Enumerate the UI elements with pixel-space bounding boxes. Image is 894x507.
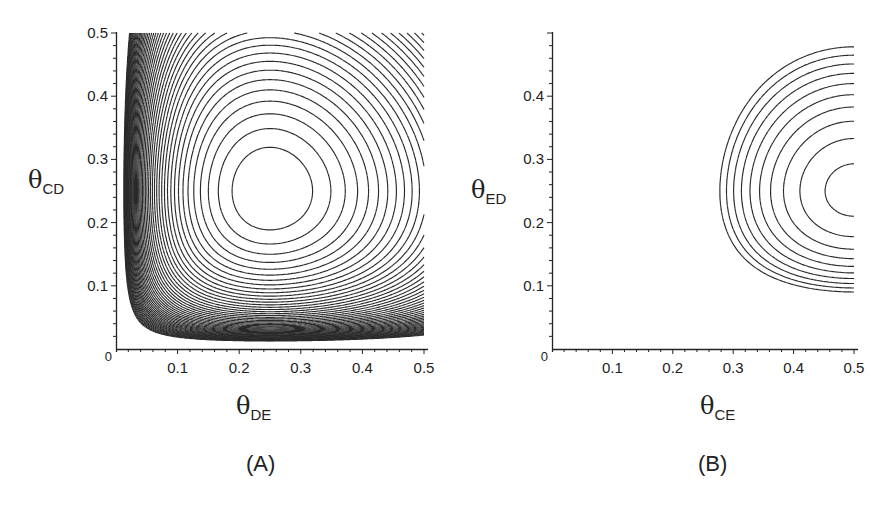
y-tick-label: 0.4 (87, 87, 108, 104)
panel-label-b: (B) (698, 451, 727, 477)
panel-a: 0.10.20.30.40.50.10.20.30.40.50 θCD θDE … (0, 0, 447, 507)
x-axis-title-a: θDE (236, 392, 271, 423)
x-tick-label: 0.4 (783, 359, 804, 376)
contour-line (126, 33, 425, 339)
origin-label: 0 (105, 349, 112, 364)
x-tick-label: 0.3 (723, 359, 744, 376)
panel-label-a: (A) (246, 451, 275, 477)
contour-line (232, 147, 313, 230)
contour-line (188, 80, 379, 276)
y-tick-label: 0.1 (523, 277, 544, 294)
contour-line (208, 114, 345, 255)
y-tick-label: 0.5 (87, 24, 108, 41)
contour-line (179, 61, 397, 285)
x-tick-label: 0.2 (662, 359, 683, 376)
contour-line (194, 90, 369, 269)
contour-line (760, 95, 854, 267)
x-tick-label: 0.1 (167, 359, 188, 376)
contour-line (800, 139, 854, 237)
contour-line (140, 33, 424, 325)
contour-lines (124, 33, 424, 341)
origin-label: 0 (541, 349, 548, 364)
panel-b: 0.10.20.30.40.50.10.20.30.40 θED θCE (B) (447, 0, 894, 507)
y-axis-title-b: θED (471, 176, 506, 207)
y-tick-label: 0.2 (87, 214, 108, 231)
contour-line (145, 33, 424, 319)
contour-lines (720, 47, 854, 292)
contour-plot-b: 0.10.20.30.40.50.10.20.30.40 (447, 0, 894, 507)
x-tick-label: 0.4 (352, 359, 373, 376)
y-tick-label: 0.4 (523, 87, 544, 104)
contour-line (134, 33, 424, 331)
y-tick-label: 0.3 (523, 150, 544, 167)
contour-line (159, 33, 424, 305)
y-axis-title-a: θCD (28, 166, 64, 197)
contour-line (128, 33, 425, 337)
contour-plot-a: 0.10.20.30.40.50.10.20.30.40.50 (0, 0, 447, 507)
y-tick-label: 0.2 (523, 214, 544, 231)
contour-line (784, 121, 855, 249)
contour-line (218, 129, 331, 245)
x-tick-label: 0.2 (229, 359, 250, 376)
contour-line (175, 53, 405, 289)
x-axis-title-b: θCE (700, 392, 735, 423)
contour-line (168, 38, 420, 296)
contour-line (825, 164, 854, 216)
contour-line (135, 33, 424, 330)
contour-line (139, 33, 424, 326)
y-tick-label: 0.3 (87, 150, 108, 167)
x-tick-label: 0.3 (290, 359, 311, 376)
contour-line (125, 33, 424, 340)
x-tick-label: 0.5 (844, 359, 865, 376)
x-tick-label: 0.5 (414, 359, 435, 376)
y-tick-label: 0.1 (87, 277, 108, 294)
x-tick-label: 0.1 (602, 359, 623, 376)
axes (547, 32, 858, 354)
tick-labels: 0.10.20.30.40.50.10.20.30.40 (523, 87, 864, 376)
contour-line (200, 101, 357, 262)
contour-line (129, 33, 424, 336)
contour-line (130, 33, 424, 335)
